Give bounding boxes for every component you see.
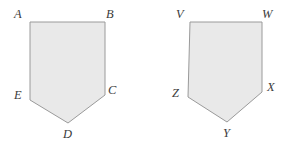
vertex-label-c: C <box>108 84 116 97</box>
geometry-figure-canvas <box>0 0 294 152</box>
vertex-label-b: B <box>106 8 114 21</box>
vertex-label-y: Y <box>223 127 230 140</box>
vertex-label-w: W <box>262 8 272 21</box>
vertex-label-a: A <box>14 8 22 21</box>
pentagon-vwxyz-shape <box>188 22 262 122</box>
vertex-label-z: Z <box>172 87 179 100</box>
pentagon-abcde-shape <box>30 22 105 123</box>
vertex-label-e: E <box>14 89 22 102</box>
vertex-label-d: D <box>63 128 72 141</box>
vertex-label-v: V <box>176 8 184 21</box>
vertex-label-x: X <box>267 81 275 94</box>
